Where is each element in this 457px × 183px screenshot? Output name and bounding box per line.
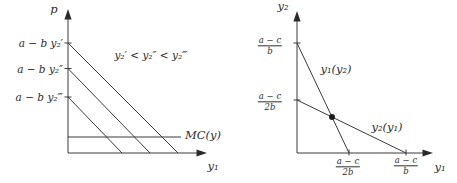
left-x-axis-arrow-icon <box>197 149 208 156</box>
reaction-curve-firm1 <box>297 43 349 153</box>
figure-canvas: p y₁ a − b y₂′ a − b y₂″ a − b y₂‴ y₂′ <… <box>0 0 457 183</box>
demand-line-3 <box>68 97 122 153</box>
right-y-axis-arrow-icon <box>293 11 300 22</box>
quantity-ordering-annotation: y₂′ < y₂″ < y₂‴ <box>114 50 187 61</box>
x-axis-fraction-2-denominator: b <box>394 167 418 177</box>
reaction-curve-firm2-label: y₂(y₁) <box>371 122 402 134</box>
left-y-axis-arrow-icon <box>64 9 71 20</box>
x-axis-fraction-2: a − c b <box>394 155 418 176</box>
right-figure <box>293 11 433 157</box>
demand-line-2 <box>68 69 150 154</box>
intercept-label-3: a − b y₂‴ <box>16 92 63 103</box>
right-y-axis-label: y₂ <box>277 1 288 13</box>
left-x-axis-label: y₁ <box>207 161 218 173</box>
equilibrium-dot <box>329 114 335 120</box>
x-axis-fraction-2-numerator: a − c <box>394 155 418 166</box>
mc-curve-label: MC(y) <box>185 130 221 142</box>
y-axis-fraction-1: a − c b <box>258 35 282 56</box>
y-axis-fraction-2-numerator: a − c <box>258 91 282 102</box>
right-x-axis-label: y₁ <box>434 162 445 174</box>
left-y-axis-label: p <box>50 4 57 16</box>
x-axis-fraction-1-denominator: 2b <box>336 168 360 178</box>
intercept-label-1: a − b y₂′ <box>19 38 63 49</box>
y-axis-fraction-2: a − c 2b <box>258 91 282 112</box>
y-axis-fraction-1-denominator: b <box>258 47 282 57</box>
x-axis-fraction-1-numerator: a − c <box>336 156 360 167</box>
right-x-axis-arrow-icon <box>423 149 434 156</box>
y-axis-fraction-1-numerator: a − c <box>258 35 282 46</box>
reaction-curve-firm1-label: y₁(y₂) <box>320 64 351 76</box>
intercept-label-2: a − b y₂″ <box>17 63 63 74</box>
y-axis-fraction-2-denominator: 2b <box>258 103 282 113</box>
diagram-lines <box>0 0 457 183</box>
x-axis-fraction-1: a − c 2b <box>336 156 360 177</box>
